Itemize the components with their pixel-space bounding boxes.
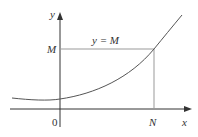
y-axis-arrow-icon: [57, 12, 63, 20]
origin-label: 0: [52, 116, 58, 128]
function-curve: [12, 15, 182, 100]
x-axis-arrow-icon: [184, 106, 192, 112]
x-axis-label: x: [181, 116, 187, 128]
line-equation-label: y = M: [91, 34, 120, 46]
function-diagram: y x 0 M N y = M: [0, 0, 198, 137]
y-axis-label: y: [49, 8, 55, 20]
M-tick-label: M: [46, 43, 57, 55]
N-tick-label: N: [148, 116, 157, 128]
